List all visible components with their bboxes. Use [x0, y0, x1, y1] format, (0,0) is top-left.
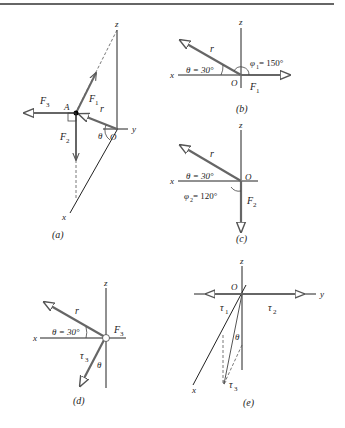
svg-text:x: x: [61, 212, 66, 222]
svg-text:3: 3: [46, 101, 50, 109]
svg-text:θ: θ: [98, 131, 103, 141]
svg-text:= 120°: = 120°: [193, 191, 218, 201]
svg-text:O: O: [110, 132, 117, 142]
svg-text:z: z: [239, 256, 244, 266]
svg-text:θ = 30°: θ = 30°: [186, 171, 214, 181]
svg-text:y: y: [131, 124, 136, 134]
svg-text:(b): (b): [236, 103, 248, 115]
svg-text:θ: θ: [235, 332, 240, 342]
svg-text:r: r: [75, 305, 79, 316]
svg-text:O: O: [231, 282, 238, 292]
svg-text:3: 3: [120, 330, 124, 338]
svg-text:τ: τ: [80, 350, 84, 361]
panel-a: z y x F 1 F 2 F 3 r A θ O (a): [24, 19, 136, 241]
into-page-icon: [103, 335, 110, 342]
panel-b: z x r θ = 30° φ 1 = 150° O F 1 (b): [169, 17, 290, 115]
svg-text:(a): (a): [52, 229, 64, 241]
svg-text:(c): (c): [236, 233, 248, 245]
svg-text:r: r: [210, 148, 214, 159]
svg-text:τ: τ: [268, 302, 272, 313]
svg-text:θ = 30°: θ = 30°: [186, 65, 214, 75]
svg-text:x: x: [32, 333, 37, 343]
svg-text:θ = 30°: θ = 30°: [52, 327, 80, 337]
svg-text:2: 2: [253, 201, 257, 209]
svg-text:3: 3: [85, 356, 89, 364]
svg-text:y: y: [319, 289, 324, 299]
svg-text:τ: τ: [229, 379, 233, 390]
panel-c: z x r θ = 30° O φ 2 = 120° F 2 (c): [169, 120, 258, 245]
svg-text:O: O: [245, 172, 252, 182]
svg-text:z: z: [238, 17, 243, 27]
physics-torque-figure: z y x F 1 F 2 F 3 r A θ O (a): [0, 0, 345, 428]
svg-text:x: x: [169, 176, 174, 186]
svg-text:= 150°: = 150°: [259, 58, 284, 68]
svg-text:(e): (e): [243, 397, 255, 409]
svg-text:τ: τ: [220, 302, 224, 313]
svg-text:x: x: [191, 385, 196, 395]
svg-text:z: z: [238, 120, 243, 130]
svg-text:2: 2: [66, 137, 70, 145]
svg-text:1: 1: [225, 308, 229, 316]
svg-text:r: r: [210, 43, 214, 54]
panel-d: z x r θ = 30° F 3 τ 3 θ (d): [32, 278, 126, 407]
svg-text:z: z: [114, 19, 119, 29]
svg-text:1: 1: [95, 99, 99, 107]
svg-text:φ: φ: [250, 58, 255, 68]
svg-text:A: A: [63, 102, 70, 112]
vector-r: [79, 114, 117, 129]
svg-text:(d): (d): [73, 395, 85, 407]
svg-text:φ: φ: [184, 191, 189, 201]
svg-text:r: r: [100, 103, 104, 114]
svg-text:θ: θ: [97, 360, 102, 370]
x-axis: [70, 130, 117, 213]
svg-text:3: 3: [234, 385, 238, 393]
svg-text:x: x: [169, 70, 174, 80]
svg-text:z: z: [103, 278, 108, 288]
svg-text:2: 2: [273, 308, 277, 316]
panel-e: z y x O τ 1 τ 2 θ τ 3 (e): [191, 256, 324, 409]
svg-text:O: O: [231, 78, 238, 88]
svg-text:1: 1: [256, 87, 260, 95]
